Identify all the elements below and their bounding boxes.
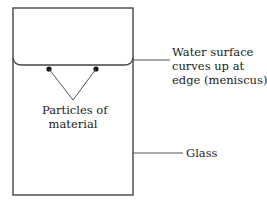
meniscus-label-line3: edge (meniscus) [172,73,267,87]
meniscus-label-line2: curves up at [172,59,267,73]
particles-label-line2: material [42,117,104,131]
glass-meniscus-diagram: Particles of material Water surface curv… [0,0,267,205]
particles-label: Particles of material [42,103,104,131]
water-surface-meniscus [13,58,133,65]
meniscus-label: Water surface curves up at edge (meniscu… [172,45,267,87]
particles-label-line1: Particles of [42,103,104,117]
diagram-canvas [0,0,267,205]
particle-pointer-left [49,69,73,100]
meniscus-label-line1: Water surface [172,45,267,59]
particle-pointer-right [73,69,96,100]
glass-label: Glass [186,146,218,160]
glass-outline [13,8,133,195]
